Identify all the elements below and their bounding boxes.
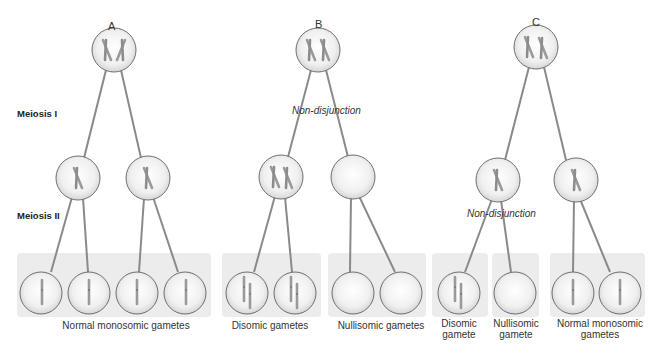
column-letter-b: B (315, 18, 322, 30)
column-c (438, 25, 641, 314)
gamete-label-c-normal-line2: gametes (555, 329, 645, 340)
gamete-a-1 (20, 272, 62, 314)
column-b (226, 28, 422, 314)
stage-label-meiosis-2: Meiosis II (17, 210, 60, 221)
gamete-a-3 (116, 272, 158, 314)
gamete-b-2 (274, 272, 316, 314)
cell-parent-a (92, 28, 136, 72)
cell-parent-c (514, 25, 558, 69)
gamete-b-1 (226, 272, 268, 314)
cell-parent-b (296, 28, 340, 72)
gamete-label-c-nullisomic-line2: gamete (493, 329, 539, 340)
gamete-label-c-normal: Normal monosomic gametes (555, 318, 645, 340)
gamete-a-2 (68, 272, 110, 314)
gamete-label-c-disomic-line2: gamete (437, 329, 481, 340)
cell-meiosis1-c-left (476, 158, 520, 202)
nondisjunction-label-b: Non-disjunction (292, 105, 361, 116)
gamete-c-1 (438, 272, 480, 314)
gamete-label-b-nullisomic: Nullisomic gametes (335, 320, 427, 331)
gamete-b-3 (332, 272, 374, 314)
gamete-c-3 (552, 272, 594, 314)
cell-meiosis1-a-right (126, 156, 170, 200)
cell-meiosis1-b-right (331, 155, 375, 199)
gamete-b-4 (380, 272, 422, 314)
gamete-label-b-disomic: Disomic gametes (226, 320, 314, 331)
gamete-label-c-disomic: Disomic gamete (437, 318, 481, 340)
column-letter-a: A (108, 20, 115, 32)
cell-meiosis1-c-right (554, 158, 598, 202)
gamete-label-c-normal-line1: Normal monosomic (555, 318, 645, 329)
cell-meiosis1-b-left (259, 155, 303, 199)
gamete-label-c-nullisomic-line1: Nullisomic (493, 318, 539, 329)
gamete-label-c-nullisomic: Nullisomic gamete (493, 318, 539, 340)
gamete-c-2 (494, 272, 536, 314)
nondisjunction-label-c: Non-disjunction (467, 208, 536, 219)
column-letter-c: C (532, 16, 540, 28)
meiosis-nondisjunction-diagram (0, 0, 659, 344)
gamete-label-c-disomic-line1: Disomic (437, 318, 481, 329)
cell-meiosis1-a-left (56, 156, 100, 200)
gamete-a-4 (164, 272, 206, 314)
gamete-c-4 (599, 272, 641, 314)
stage-label-meiosis-1: Meiosis I (17, 108, 57, 119)
gamete-label-a: Normal monosomic gametes (62, 320, 190, 331)
